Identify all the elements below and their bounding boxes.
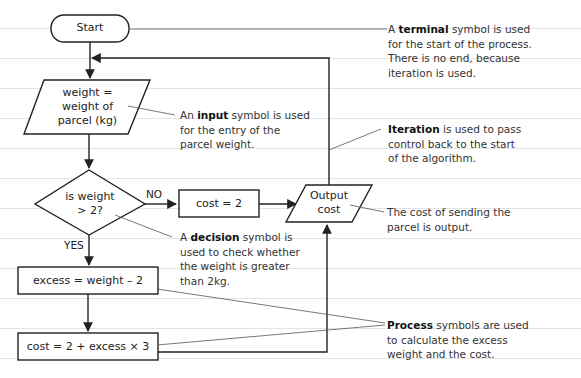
note-text: An [180, 109, 197, 121]
note-line: parcel weight. [180, 137, 310, 152]
note-line: There is no end, because [388, 51, 532, 66]
excess-node: excess = weight – 2 [18, 274, 158, 288]
cost-calc-node: cost = 2 + excess × 3 [18, 340, 158, 354]
note-line: used to check whether [180, 245, 300, 260]
input-line: weight of [30, 100, 145, 114]
start-terminal: Start [51, 21, 129, 35]
output-node: Output cost [290, 189, 368, 217]
note-keyword: decision [191, 231, 240, 243]
no-branch-label: NO [146, 188, 162, 200]
note-text: symbol is used [449, 23, 531, 35]
note-line: parcel is output. [387, 220, 511, 235]
input-line: parcel (kg) [30, 114, 145, 128]
note-text: symbol is [240, 231, 293, 243]
note-keyword: Iteration [388, 123, 440, 135]
excess-label: excess = weight – 2 [33, 274, 143, 287]
note-text: A [180, 231, 191, 243]
note-line: for the start of the process. [388, 37, 532, 52]
note-keyword: terminal [399, 23, 449, 35]
decision-node: is weight > 2? [40, 190, 140, 218]
output-line: Output [290, 189, 368, 203]
start-label: Start [77, 21, 104, 34]
cost-two-node: cost = 2 [179, 197, 259, 211]
cost-two-label: cost = 2 [196, 197, 242, 210]
note-line: the weight is greater [180, 259, 300, 274]
decision-line: is weight [40, 190, 140, 204]
terminal-annotation: A terminal symbol is used for the start … [388, 22, 532, 80]
note-text: is used to pass [440, 123, 522, 135]
note-line: than 2kg. [180, 274, 300, 289]
note-text: symbols are used [433, 319, 529, 331]
note-keyword: Process [387, 319, 433, 331]
note-text: A [388, 23, 399, 35]
input-annotation: An input symbol is used for the entry of… [180, 108, 310, 152]
note-line: to calculate the excess [387, 333, 529, 348]
note-keyword: input [197, 109, 228, 121]
process-annotation: Process symbols are used to calculate th… [387, 318, 529, 362]
note-line: for the entry of the [180, 123, 310, 138]
note-text: The cost of sending the [387, 205, 511, 220]
output-line: cost [290, 203, 368, 217]
decision-line: > 2? [40, 204, 140, 218]
yes-branch-label: YES [64, 239, 84, 251]
input-node: weight = weight of parcel (kg) [30, 86, 145, 128]
note-line: iteration is used. [388, 66, 532, 81]
iteration-annotation: Iteration is used to pass control back t… [388, 122, 521, 166]
note-text: symbol is used [228, 109, 310, 121]
input-line: weight = [30, 86, 145, 100]
note-line: control back to the start [388, 137, 521, 152]
note-line: weight and the cost. [387, 347, 529, 362]
note-line: of the algorithm. [388, 151, 521, 166]
decision-annotation: A decision symbol is used to check wheth… [180, 230, 300, 288]
cost-calc-label: cost = 2 + excess × 3 [27, 340, 150, 353]
output-annotation: The cost of sending the parcel is output… [387, 205, 511, 234]
